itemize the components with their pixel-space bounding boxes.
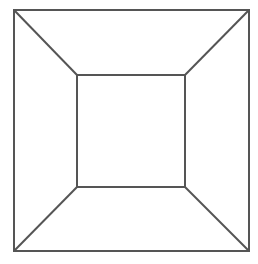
connector-bottom-right — [185, 187, 249, 251]
inner-square — [77, 75, 185, 187]
connector-top-right — [185, 10, 249, 75]
connector-top-left — [14, 10, 77, 75]
connector-bottom-left — [14, 187, 77, 251]
nested-squares-diagram — [0, 0, 258, 264]
